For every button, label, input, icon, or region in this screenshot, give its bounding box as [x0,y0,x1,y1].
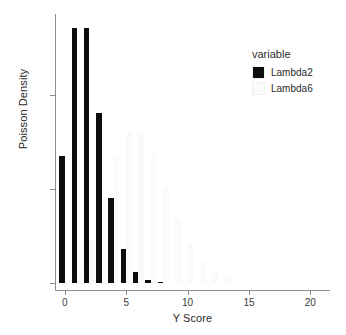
x-tick-label: 20 [295,297,325,308]
x-tick-mark [126,290,127,295]
bar-lambda2-x0 [59,156,65,283]
bar-lambda6-x6 [138,132,144,283]
legend-swatch-lambda2 [253,67,264,78]
y-tick-mark [50,95,55,96]
bar-lambda6-x7 [151,153,157,283]
bar-lambda6-x0 [65,281,71,283]
x-tick-label: 15 [234,297,264,308]
bar-lambda6-x4 [114,157,120,283]
bar-lambda6-x14 [237,281,243,283]
bar-lambda6-x1 [77,269,83,283]
y-axis-line [55,14,56,290]
y-tick-mark [50,189,55,190]
legend: variable Lambda2 Lambda6 [252,48,342,97]
bar-lambda6-x12 [212,272,218,283]
x-tick-mark [249,290,250,295]
x-tick-label: 0 [50,297,80,308]
x-tick-label: 5 [111,297,141,308]
legend-label-lambda2: Lambda2 [271,67,313,78]
x-axis-title: Y Score [55,312,330,324]
x-axis-line [55,290,330,291]
legend-title: variable [252,48,342,60]
bar-lambda6-x3 [102,199,108,283]
bar-lambda6-x5 [126,132,132,283]
bar-lambda6-x13 [224,278,230,283]
bar-lambda6-x10 [188,244,194,283]
bar-lambda6-x8 [163,186,169,283]
bar-lambda6-x11 [200,262,206,283]
x-tick-mark [188,290,189,295]
legend-label-lambda6: Lambda6 [271,83,313,94]
x-tick-label: 10 [173,297,203,308]
legend-key-lambda2 [252,66,265,79]
legend-key-lambda6 [252,82,265,95]
bar-lambda6-x15 [249,282,255,283]
x-tick-mark [310,290,311,295]
y-axis-title: Poisson Density [17,39,35,179]
legend-item-lambda6[interactable]: Lambda6 [252,81,342,96]
bar-lambda6-x2 [89,241,95,283]
y-tick-mark [50,283,55,284]
legend-swatch-lambda6 [253,83,264,94]
poisson-density-chart: 0.00.10.2 05101520 Poisson Density Y Sco… [0,0,346,335]
bar-lambda2-x1 [72,28,78,283]
legend-item-lambda2[interactable]: Lambda2 [252,65,342,80]
bar-lambda6-x9 [175,218,181,283]
x-tick-mark [65,290,66,295]
